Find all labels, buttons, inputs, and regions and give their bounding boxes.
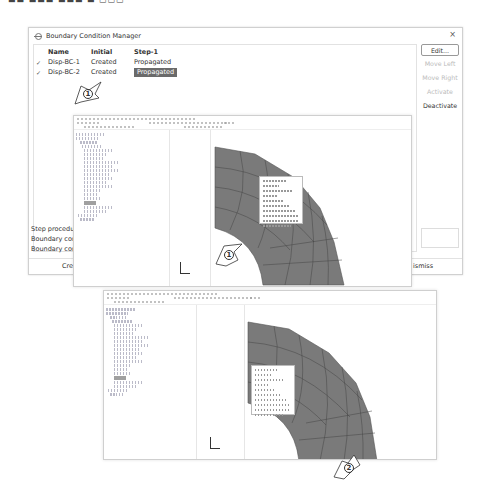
column-step-1: Step-1 (134, 48, 194, 56)
bc-step1-state[interactable]: Propagated (134, 58, 194, 66)
dialog-title: Boundary Condition Manager (46, 32, 141, 40)
screenshot-inset-1: 1 (73, 115, 412, 287)
move-right-button[interactable]: Move Right (421, 72, 459, 84)
table-row[interactable]: ✓ Disp-BC-2 Created Propagated (34, 67, 194, 77)
dialog-titlebar: Boundary Condition Manager (29, 28, 462, 44)
model-tree[interactable] (106, 307, 176, 397)
check-icon[interactable]: ✓ (34, 69, 48, 76)
model-tree[interactable] (76, 132, 146, 222)
table-row[interactable]: ✓ Disp-BC-1 Created Propagated (34, 57, 194, 67)
boundary-condition-icon (34, 32, 42, 40)
move-left-button[interactable]: Move Left (421, 58, 459, 70)
deactivate-button[interactable]: Deactivate (421, 100, 459, 112)
callout-arrow-2: 2 (332, 455, 362, 481)
callout-arrow-1: 1 (73, 80, 103, 106)
bc-name[interactable]: Disp-BC-2 (48, 68, 91, 76)
column-initial: Initial (91, 48, 134, 56)
activate-button[interactable]: Activate (421, 86, 459, 98)
side-button-panel: Edit... Move Left Move Right Activate De… (421, 44, 459, 114)
callout-number: 2 (344, 463, 354, 473)
screenshot-inset-2 (103, 290, 437, 460)
bc-initial-state[interactable]: Created (91, 68, 134, 76)
callout-number: 1 (224, 250, 234, 260)
callout-number: 1 (83, 89, 93, 99)
bc-step1-state-selected[interactable]: Propagated (134, 68, 194, 77)
cropped-heading: ▬▬ ▬▬▬ ▬▬▬ ▬ ▭▭▭ (8, 0, 125, 5)
dismiss-button[interactable]: ismiss (413, 262, 433, 270)
check-icon[interactable]: ✓ (34, 59, 48, 66)
coordinate-triad-icon (208, 437, 220, 451)
app-toolbar (74, 116, 411, 130)
query-popup[interactable] (251, 365, 295, 415)
graphics-viewport[interactable] (244, 305, 436, 459)
coordinate-triad-icon (178, 262, 190, 276)
graphics-viewport[interactable]: 1 (210, 130, 411, 286)
edit-button[interactable]: Edit... (421, 44, 459, 56)
bc-initial-state[interactable]: Created (91, 58, 134, 66)
close-button[interactable]: × (449, 30, 456, 39)
query-popup[interactable] (259, 176, 303, 224)
side-info-box (421, 228, 459, 248)
table-header: Name Initial Step-1 (34, 47, 194, 57)
app-toolbar (104, 291, 436, 305)
bc-name[interactable]: Disp-BC-1 (48, 58, 91, 66)
column-name: Name (48, 48, 91, 56)
callout-arrow-1-shot: 1 (214, 242, 244, 268)
